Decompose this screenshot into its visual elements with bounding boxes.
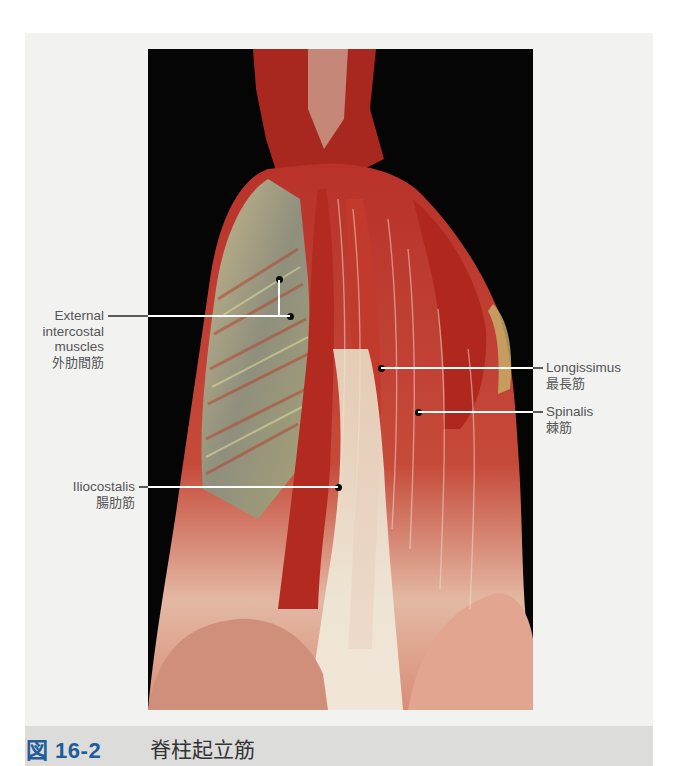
dissection-illustration — [148, 49, 533, 710]
label-external-intercostal: External intercostal muscles 外肋間筋 — [42, 308, 104, 370]
caption-bar — [25, 726, 653, 766]
label-en-line: Longissimus — [546, 360, 621, 376]
leader-line-external-intercostal-vertical — [278, 280, 280, 316]
dissection-photo — [148, 49, 533, 710]
label-en-line: Spinalis — [546, 404, 593, 420]
leader-line-spinalis — [418, 411, 533, 413]
leader-line-longissimus-outer — [533, 367, 543, 369]
leader-line-external-intercostal-outer — [108, 315, 148, 317]
figure-title: 脊柱起立筋 — [150, 733, 255, 763]
label-jp: 腸肋筋 — [73, 495, 135, 511]
label-en-line: intercostal — [42, 324, 104, 340]
leader-line-spinalis-outer — [533, 411, 543, 413]
label-iliocostalis: Iliocostalis 腸肋筋 — [73, 479, 135, 510]
figure-number: 図 16-2 — [26, 732, 101, 764]
label-jp: 棘筋 — [546, 420, 593, 436]
label-en-line: Iliocostalis — [73, 479, 135, 495]
leader-line-iliocostalis-outer — [139, 486, 148, 488]
leader-line-longissimus — [381, 367, 533, 369]
label-jp: 外肋間筋 — [42, 355, 104, 371]
label-en-line: muscles — [42, 339, 104, 355]
label-longissimus: Longissimus 最長筋 — [546, 360, 621, 391]
leader-line-external-intercostal — [148, 315, 290, 317]
label-jp: 最長筋 — [546, 376, 621, 392]
label-en-line: External — [42, 308, 104, 324]
leader-line-iliocostalis — [148, 486, 338, 488]
label-spinalis: Spinalis 棘筋 — [546, 404, 593, 435]
